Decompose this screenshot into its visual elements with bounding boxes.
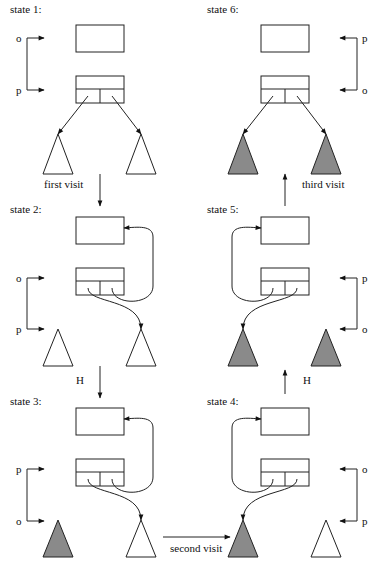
parent-record-box xyxy=(76,25,124,52)
pointer-label: o xyxy=(16,515,22,527)
transition-label: first visit xyxy=(44,178,83,190)
pointer-label: o xyxy=(362,84,368,96)
state-label: state 5: xyxy=(207,203,238,215)
right-subtree-unvisited-icon xyxy=(126,520,156,557)
parent-record-box xyxy=(76,408,124,435)
node-record xyxy=(261,459,309,486)
node-record xyxy=(76,459,124,486)
state-6: state 6:po xyxy=(207,3,368,174)
state-label: state 3: xyxy=(10,395,41,407)
op-pointer-bracket: po xyxy=(340,272,368,335)
op-pointer-bracket: po xyxy=(16,463,44,527)
parent-record-box xyxy=(261,217,309,244)
left-subtree-unvisited-icon xyxy=(43,329,73,366)
left-subtree-unvisited-icon xyxy=(43,134,73,174)
transition-2-to-3: H xyxy=(76,366,100,398)
pointer-label: o xyxy=(362,323,368,335)
state-5: state 5:po xyxy=(207,203,368,366)
node-record xyxy=(76,76,124,103)
pointer-label: o xyxy=(16,32,22,44)
pointer-label: o xyxy=(16,272,22,284)
transition-label: H xyxy=(303,374,311,386)
state-1: state 1:op xyxy=(10,3,156,174)
transition-4-to-5: H xyxy=(285,370,311,394)
parent-record-box xyxy=(261,25,309,52)
left-subtree-visited-icon xyxy=(228,134,258,174)
transition-label: second visit xyxy=(170,542,222,554)
transition-3-to-4: second visit xyxy=(163,537,230,554)
left-subtree-visited-icon xyxy=(43,520,73,557)
right-subtree-unvisited-icon xyxy=(311,520,341,557)
transition-1-to-2: first visit xyxy=(44,174,100,206)
pointer-reversal-diagram: state 1:opstate 2:opstate 3:postate 4:op… xyxy=(0,0,391,568)
pointer-label: p xyxy=(362,32,368,44)
state-label: state 1: xyxy=(10,3,41,15)
state-2: state 2:op xyxy=(10,203,156,366)
transition-5-to-6: third visit xyxy=(285,174,344,206)
pointer-label: p xyxy=(16,463,22,475)
parent-record-box xyxy=(76,217,124,244)
transition-label: third visit xyxy=(302,178,344,190)
pointer-label: p xyxy=(16,84,22,96)
node-record xyxy=(76,268,124,295)
state-3: state 3:po xyxy=(10,395,156,557)
parent-record-box xyxy=(261,408,309,435)
state-label: state 6: xyxy=(207,3,238,15)
right-subtree-unvisited-icon xyxy=(126,134,156,174)
pointer-label: p xyxy=(16,323,22,335)
state-label: state 4: xyxy=(207,395,238,407)
op-pointer-bracket: po xyxy=(340,32,368,96)
pointer-label: o xyxy=(362,463,368,475)
op-pointer-bracket: op xyxy=(16,272,44,335)
left-subtree-visited-icon xyxy=(228,520,258,557)
op-pointer-bracket: op xyxy=(340,463,368,527)
state-4: state 4:op xyxy=(207,395,368,557)
right-subtree-visited-icon xyxy=(311,329,341,366)
diagram-canvas: state 1:opstate 2:opstate 3:postate 4:op… xyxy=(0,0,391,568)
pointer-label: p xyxy=(362,515,368,527)
node-record xyxy=(261,76,309,103)
right-subtree-unvisited-icon xyxy=(126,329,156,366)
pointer-label: p xyxy=(362,272,368,284)
node-record xyxy=(261,268,309,295)
state-label: state 2: xyxy=(10,203,41,215)
transition-label: H xyxy=(76,374,84,386)
right-subtree-visited-icon xyxy=(311,134,341,174)
op-pointer-bracket: op xyxy=(16,32,44,96)
left-subtree-visited-icon xyxy=(228,329,258,366)
